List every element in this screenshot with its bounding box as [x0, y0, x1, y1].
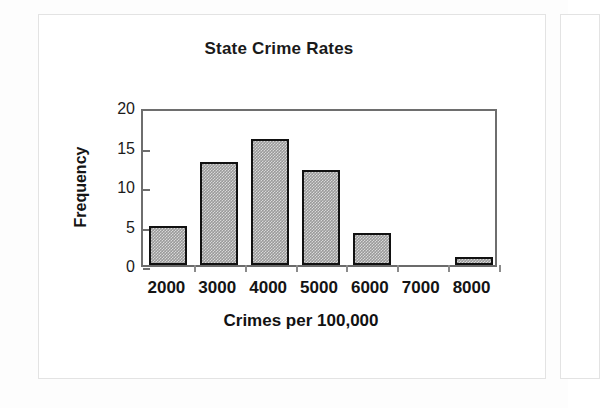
y-tick-label-5: 5: [101, 219, 135, 237]
x-tick-mark-2: [245, 265, 247, 272]
histogram-bar-2000: [149, 226, 187, 266]
histogram-bar-6000: [353, 233, 391, 265]
y-axis-title: Frequency: [72, 112, 90, 262]
adjacent-page-panel: [560, 14, 600, 379]
y-tick-label-20: 20: [101, 100, 135, 118]
x-tick-label-5000: 5000: [300, 278, 338, 298]
y-tick-mark-0: [143, 268, 150, 270]
x-tick-label-8000: 8000: [453, 278, 491, 298]
y-axis-tick-labels: 05101520: [97, 109, 135, 267]
x-tick-mark-1: [194, 265, 196, 272]
x-tick-label-4000: 4000: [249, 278, 287, 298]
x-tick-label-7000: 7000: [402, 278, 440, 298]
histogram-bar-4000: [251, 139, 289, 265]
x-axis-title: Crimes per 100,000: [101, 311, 501, 331]
y-tick-label-15: 15: [101, 140, 135, 158]
y-tick-mark-15: [143, 150, 150, 152]
chart-title: State Crime Rates: [39, 39, 519, 59]
x-tick-mark-4: [346, 265, 348, 272]
x-tick-mark-7: [499, 265, 501, 272]
histogram-bar-3000: [200, 162, 238, 265]
x-tick-mark-3: [296, 265, 298, 272]
x-tick-mark-5: [397, 265, 399, 272]
histogram-bar-8000: [455, 257, 493, 265]
histogram-bar-5000: [302, 170, 340, 265]
x-axis-tick-labels: 2000300040005000600070008000: [141, 278, 497, 304]
x-tick-mark-6: [448, 265, 450, 272]
histogram-figure: State Crime Rates Frequency 05101520 200…: [39, 15, 547, 380]
y-tick-mark-10: [143, 189, 150, 191]
plot-area: [141, 109, 497, 267]
x-tick-label-3000: 3000: [198, 278, 236, 298]
y-tick-label-0: 0: [101, 258, 135, 276]
figure-panel: State Crime Rates Frequency 05101520 200…: [38, 14, 546, 379]
y-tick-label-10: 10: [101, 179, 135, 197]
x-tick-label-6000: 6000: [351, 278, 389, 298]
x-tick-label-2000: 2000: [148, 278, 186, 298]
